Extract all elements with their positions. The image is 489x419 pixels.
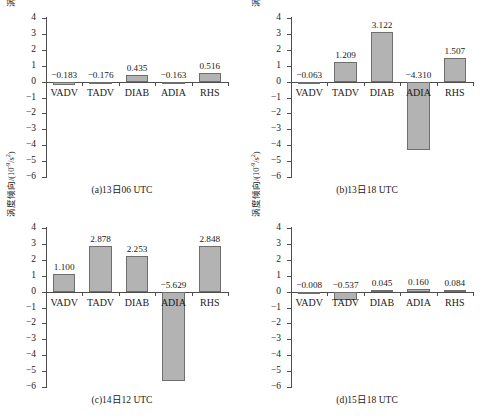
y-axis-tick-label: −2 (271, 106, 281, 119)
x-axis-category-label: DIAB (370, 87, 394, 99)
bar-value-label: 1.209 (335, 50, 356, 61)
plot-area-b: 43210−1−2−3−4−5−6−0.063VADV1.209TADV3.12… (291, 18, 473, 177)
y-axis-tick-label: 4 (276, 11, 281, 24)
y-axis-tick-label: −1 (271, 301, 281, 314)
bar (298, 292, 321, 294)
x-axis-category-label: TADV (332, 87, 359, 99)
bar (407, 289, 430, 292)
y-axis-tick-label: −2 (26, 316, 36, 329)
bar-value-label: 3.122 (372, 20, 393, 31)
y-axis-tick: 3 (287, 244, 292, 245)
y-axis-tick: −3 (287, 129, 292, 130)
y-axis-tick: −6 (42, 177, 47, 178)
x-axis-tick (364, 82, 365, 86)
y-axis-tick-label: 2 (31, 253, 36, 266)
y-axis-title: 涡度倾向/(10-9/s2) (2, 124, 14, 244)
y-axis-tick-label: −6 (26, 380, 36, 393)
y-axis-tick-label: −5 (26, 364, 36, 377)
plot-area-a: 43210−1−2−3−4−5−6−0.183VADV−0.176TADV0.4… (46, 18, 228, 177)
bar (162, 82, 185, 85)
y-axis-tick-label: 0 (31, 285, 36, 298)
bar-value-label: −5.629 (160, 280, 186, 291)
x-axis-category-label: TADV (87, 297, 114, 309)
bar (298, 82, 321, 84)
y-axis-tick-label: 3 (31, 27, 36, 40)
bar (53, 82, 76, 85)
bar (371, 290, 394, 292)
y-axis-tick: 4 (287, 228, 292, 229)
y-axis-tick-label: −3 (271, 332, 281, 345)
x-axis-category-label: ADIA (161, 297, 186, 309)
y-axis-tick-label: 1 (276, 59, 281, 72)
bar-value-label: −4.310 (405, 70, 431, 81)
y-axis-tick-label: −5 (271, 154, 281, 167)
y-axis-tick: −3 (42, 129, 47, 130)
bar (444, 58, 467, 82)
y-axis-tick-label: −3 (271, 122, 281, 135)
y-axis-tick: −2 (42, 113, 47, 114)
y-axis-tick: −6 (287, 177, 292, 178)
x-axis-tick (364, 292, 365, 296)
chart-panel-d: 涡度倾向/(10-9/s2) 43210−1−2−3−4−5−6−0.008VA… (245, 210, 489, 419)
y-axis-tick: −5 (42, 161, 47, 162)
x-axis-tick (400, 82, 401, 86)
y-axis-tick-label: −4 (26, 348, 36, 361)
y-axis-tick-label: 1 (276, 269, 281, 282)
x-axis-category-label: VADV (50, 87, 78, 99)
x-axis-tick (228, 82, 229, 86)
y-axis-tick: −5 (287, 161, 292, 162)
y-axis-tick: −2 (42, 323, 47, 324)
x-axis-tick (473, 292, 474, 296)
x-axis-tick (400, 292, 401, 296)
y-axis-tick: −4 (287, 355, 292, 356)
bar (89, 82, 112, 85)
y-axis-tick: 2 (42, 260, 47, 261)
y-axis-tick-label: 1 (31, 269, 36, 282)
y-axis-tick-label: 4 (276, 221, 281, 234)
y-axis-tick: 2 (287, 50, 292, 51)
chart-panel-a: 涡度倾向/(10-9/s2) 43210−1−2−3−4−5−6−0.183VA… (0, 0, 244, 209)
bar-value-label: −0.063 (296, 70, 322, 81)
plot-area-c: 43210−1−2−3−4−5−61.100VADV2.878TADV2.253… (46, 228, 228, 387)
y-axis-tick: −1 (42, 308, 47, 309)
y-axis-tick: −5 (287, 371, 292, 372)
y-axis-tick: −1 (42, 98, 47, 99)
y-axis-tick: 4 (42, 18, 47, 19)
y-axis-tick: −4 (42, 145, 47, 146)
zero-baseline (46, 292, 228, 293)
y-axis-tick-label: −3 (26, 332, 36, 345)
x-axis-category-label: RHS (445, 297, 464, 309)
x-axis-category-label: ADIA (406, 297, 431, 309)
y-axis-tick: −2 (287, 323, 292, 324)
y-axis-tick-label: 0 (276, 75, 281, 88)
bar-value-label: −0.163 (160, 70, 186, 81)
y-axis-tick-label: −1 (26, 91, 36, 104)
x-axis-tick (82, 82, 83, 86)
bar (53, 274, 76, 291)
y-axis-tick-label: 4 (31, 221, 36, 234)
y-axis-tick-label: 3 (276, 237, 281, 250)
x-axis-tick (437, 292, 438, 296)
bar-value-label: −0.008 (296, 280, 322, 291)
x-axis-category-label: DIAB (125, 297, 149, 309)
y-axis-tick-label: −6 (271, 380, 281, 393)
y-axis-tick: 3 (42, 244, 47, 245)
y-axis-tick: 4 (42, 228, 47, 229)
x-axis-tick (327, 292, 328, 296)
y-axis-tick-label: 2 (276, 43, 281, 56)
bar-value-label: 0.516 (199, 61, 220, 72)
bar (199, 246, 222, 291)
y-axis-tick: 3 (287, 34, 292, 35)
y-axis-tick-label: −1 (271, 91, 281, 104)
chart-panel-c: 涡度倾向/(10-9/s2) 43210−1−2−3−4−5−61.100VAD… (0, 210, 244, 419)
y-axis-tick-label: −4 (271, 138, 281, 151)
y-axis-tick-label: −3 (26, 122, 36, 135)
bar-value-label: 2.848 (199, 234, 220, 245)
x-axis-tick (82, 292, 83, 296)
cutoff-caption-strip (0, 411, 489, 419)
x-axis-category-label: TADV (87, 87, 114, 99)
x-axis-category-label: RHS (200, 297, 219, 309)
y-axis-title: 涡度倾向/(10-9/s2) (247, 0, 259, 34)
y-axis-tick-label: −4 (271, 348, 281, 361)
bar-value-label: 2.253 (127, 244, 148, 255)
